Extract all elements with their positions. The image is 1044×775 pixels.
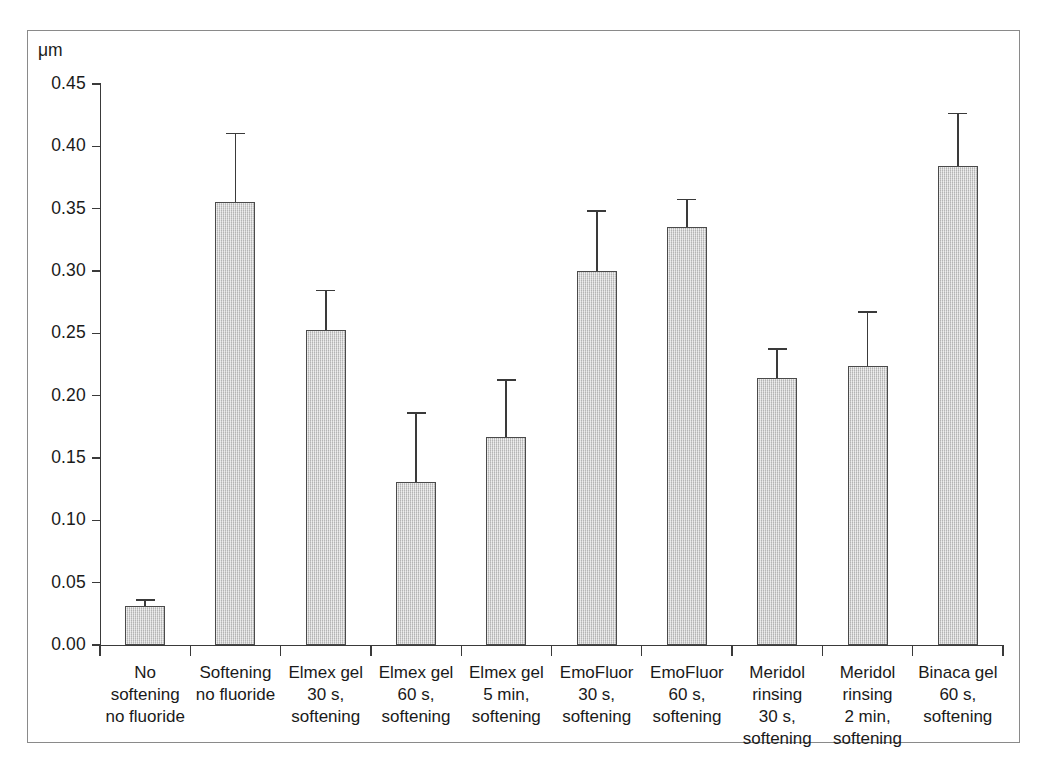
bar [667,227,707,645]
x-axis-label-line: no fluoride [184,684,286,706]
y-axis-tick-label: 0.40 [30,135,86,156]
x-axis-tick [370,645,371,656]
x-axis-category-label: Elmex gel5 min,softening [455,662,557,728]
x-axis-label-line: Meridol [726,662,828,684]
y-axis-tick-label: 0.15 [30,447,86,468]
error-bar-stem [867,311,869,366]
y-axis-tick-label: 0.35 [30,198,86,219]
error-bar-stem [505,379,507,436]
error-bar-stem [596,210,598,271]
y-axis-unit-label: μm [38,40,63,61]
x-axis-tick [461,645,462,656]
x-axis-tick [822,645,823,656]
error-bar-stem [957,113,959,167]
bar-chart-plot: μm 0.450.400.350.300.250.200.150.100.050… [0,0,1044,775]
error-bar-cap [948,113,967,115]
x-axis-label-line: softening [275,706,377,728]
bar [577,271,617,645]
error-bar-stem [415,412,417,482]
error-bar-cap [316,290,335,292]
x-axis-label-line: 60 s, [907,684,1009,706]
bar [215,202,255,645]
x-axis-label-line: 60 s, [365,684,467,706]
x-axis-label-line: Elmex gel [275,662,377,684]
x-axis-tick [912,645,913,656]
error-bar-cap [677,199,696,201]
x-axis-category-label: EmoFluor60 s,softening [636,662,738,728]
x-axis-label-line: rinsing [726,684,828,706]
x-axis-label-line: no fluoride [94,706,196,728]
error-bar-cap [858,311,877,313]
error-bar-stem [235,133,237,203]
x-axis-label-line: Elmex gel [365,662,467,684]
error-bar-cap [407,412,426,414]
error-bar-stem [325,290,327,330]
x-axis-tick [641,645,642,656]
y-axis-tick [92,395,101,396]
x-axis-label-line: Elmex gel [455,662,557,684]
x-axis-label-line: softening [907,706,1009,728]
x-axis-label-line: softening [726,728,828,750]
x-axis-category-label: Binaca gel60 s,softening [907,662,1009,728]
bar [396,482,436,645]
figure-canvas: μm 0.450.400.350.300.250.200.150.100.050… [0,0,1044,775]
y-axis-line [100,84,101,646]
x-axis-tick [1002,645,1003,656]
x-axis-label-line: 30 s, [546,684,648,706]
x-axis-label-line: Softening [184,662,286,684]
error-bar-cap [136,599,155,601]
x-axis-category-label: Elmex gel60 s,softening [365,662,467,728]
y-axis-tick-label: 0.00 [30,634,86,655]
x-axis-tick [99,645,100,656]
x-axis-label-line: rinsing [816,684,918,706]
x-axis-label-line: 30 s, [275,684,377,706]
error-bar-cap [768,348,787,350]
bar [757,378,797,645]
bar [848,366,888,645]
y-axis-tick [92,333,101,334]
x-axis-label-line: softening [636,706,738,728]
x-axis-label-line: 30 s, [726,706,828,728]
x-axis-tick [280,645,281,656]
error-bar-stem [686,199,688,228]
x-axis-category-label: Nosofteningno fluoride [94,662,196,728]
y-axis-tick [92,83,101,84]
y-axis-tick-label: 0.05 [30,572,86,593]
x-axis-category-label: Elmex gel30 s,softening [275,662,377,728]
x-axis-category-label: EmoFluor30 s,softening [546,662,648,728]
x-axis-label-line: EmoFluor [546,662,648,684]
y-axis-tick [92,582,101,583]
y-axis-tick-label: 0.30 [30,260,86,281]
y-axis-tick [92,208,101,209]
x-axis-label-line: Binaca gel [907,662,1009,684]
y-axis-tick-label: 0.45 [30,73,86,94]
y-axis-tick-label: 0.10 [30,509,86,530]
x-axis-label-line: 60 s, [636,684,738,706]
x-axis-tick [551,645,552,656]
error-bar-cap [226,133,245,135]
y-axis-tick [92,146,101,147]
x-axis-label-line: softening [546,706,648,728]
x-axis-label-line: softening [455,706,557,728]
error-bar-cap [587,210,606,212]
x-axis-label-line: No [94,662,196,684]
x-axis-label-line: Meridol [816,662,918,684]
x-axis-tick [731,645,732,656]
y-axis-tick-label: 0.20 [30,385,86,406]
bar [938,166,978,645]
x-axis-category-label: Meridolrinsing2 min,softening [816,662,918,750]
y-axis-tick [92,270,101,271]
x-axis-label-line: softening [816,728,918,750]
x-axis-label-line: 2 min, [816,706,918,728]
y-axis-tick [92,457,101,458]
bar [486,437,526,645]
error-bar-stem [776,348,778,378]
y-axis-tick-label: 0.25 [30,322,86,343]
x-axis-label-line: softening [94,684,196,706]
x-axis-label-line: softening [365,706,467,728]
x-axis-category-label: Softeningno fluoride [184,662,286,706]
x-axis-label-line: 5 min, [455,684,557,706]
x-axis-label-line: EmoFluor [636,662,738,684]
bar [125,606,165,645]
y-axis-tick [92,520,101,521]
